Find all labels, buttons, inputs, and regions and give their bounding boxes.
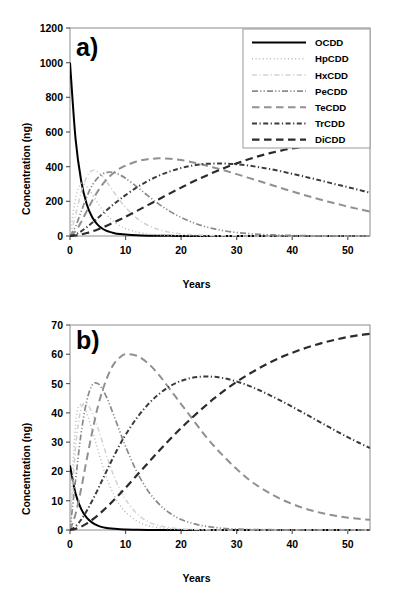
y-axis-tick-label: 1200 xyxy=(40,22,64,34)
series-line-pecdd xyxy=(70,383,370,530)
x-axis-tick-label: 0 xyxy=(67,244,73,256)
x-axis-tick-label: 40 xyxy=(286,244,298,256)
legend: OCDDHpCDDHxCDDPeCDDTeCDDTrCDDDiCDD xyxy=(243,29,370,148)
y-axis-tick-label: 0 xyxy=(57,230,63,242)
panel-a-plot: 02004006008001000120001020304050OCDDHpCD… xyxy=(0,0,393,300)
series-line-pecdd xyxy=(70,172,370,236)
x-axis-tick-label: 10 xyxy=(120,244,132,256)
legend-label-tecdd: TeCDD xyxy=(315,102,346,113)
y-axis-tick-label: 200 xyxy=(45,195,63,207)
series-line-dicdd xyxy=(70,145,370,236)
series-line-ocdd xyxy=(70,466,370,530)
y-axis-tick-label: 800 xyxy=(45,91,63,103)
x-axis-tick-label: 40 xyxy=(286,538,298,550)
y-axis-tick-label: 60 xyxy=(51,348,63,360)
series-line-hpcdd xyxy=(70,404,370,530)
panel-a-y-axis-label: Concentration (ng) xyxy=(20,123,32,215)
panel-b-y-axis-label: Concentration (ng) xyxy=(20,423,32,515)
x-axis-tick-label: 10 xyxy=(120,538,132,550)
x-axis-tick-label: 30 xyxy=(231,538,243,550)
panel-a-x-axis-label: Years xyxy=(0,278,393,290)
legend-label-trcdd: TrCDD xyxy=(315,118,345,129)
panel-b-tag: b) xyxy=(76,328,100,353)
legend-label-pecdd: PeCDD xyxy=(315,86,348,97)
x-axis-tick-label: 30 xyxy=(231,244,243,256)
series-line-hpcdd xyxy=(70,183,370,236)
y-axis-tick-label: 20 xyxy=(51,465,63,477)
y-axis-tick-label: 0 xyxy=(57,524,63,536)
chart-panel-a: Concentration (ng) a) Years 020040060080… xyxy=(0,0,393,300)
y-axis-tick-label: 1000 xyxy=(40,57,64,69)
panel-b-plot: 01020304050607001020304050 xyxy=(0,300,393,600)
panel-b-x-axis-label: Years xyxy=(0,572,393,584)
y-axis-tick-label: 40 xyxy=(51,407,63,419)
panel-a-tag: a) xyxy=(76,35,98,60)
legend-box xyxy=(243,29,370,148)
x-axis-tick-label: 50 xyxy=(342,538,354,550)
series-line-tecdd xyxy=(70,354,370,530)
legend-label-dicdd: DiCDD xyxy=(315,134,345,145)
x-axis-tick-label: 0 xyxy=(67,538,73,550)
chart-panel-b: Concentration (ng) b) Years 010203040506… xyxy=(0,300,393,600)
y-axis-tick-label: 50 xyxy=(51,378,63,390)
y-axis-tick-label: 10 xyxy=(51,495,63,507)
legend-label-hxcdd: HxCDD xyxy=(315,70,348,81)
series-line-trcdd xyxy=(70,163,370,236)
series-group xyxy=(70,334,370,530)
legend-label-hpcdd: HpCDD xyxy=(315,53,349,64)
x-axis-tick-label: 50 xyxy=(342,244,354,256)
y-axis-tick-label: 30 xyxy=(51,436,63,448)
y-axis-tick-label: 70 xyxy=(51,319,63,331)
y-axis-tick-label: 600 xyxy=(45,126,63,138)
figure-container: Concentration (ng) a) Years 020040060080… xyxy=(0,0,393,600)
series-line-hxcdd xyxy=(70,403,370,530)
legend-label-ocdd: OCDD xyxy=(315,37,343,48)
y-axis-tick-label: 400 xyxy=(45,161,63,173)
series-line-tecdd xyxy=(70,158,370,236)
x-axis-tick-label: 20 xyxy=(175,244,187,256)
x-axis-tick-label: 20 xyxy=(175,538,187,550)
